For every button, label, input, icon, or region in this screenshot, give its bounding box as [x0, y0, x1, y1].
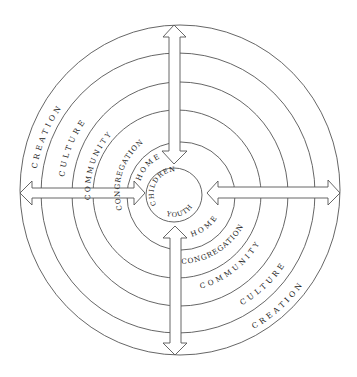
left-double-arrow-icon	[20, 181, 145, 205]
label-community-lower: COMMUNITY	[199, 238, 263, 291]
label-creation-upper: CREATION	[30, 102, 65, 169]
top-double-arrow-icon	[162, 25, 187, 164]
right-double-arrow-icon	[207, 180, 340, 205]
label-children: CHILDREN	[147, 165, 176, 207]
label-home-lower: HOME	[189, 212, 220, 239]
label-congregation-lower: CONGREGATION	[181, 222, 246, 266]
label-culture-upper: CULTURE	[57, 116, 88, 177]
bottom-double-arrow-icon	[163, 226, 187, 355]
concentric-ministry-diagram: CREATION CULTURE COMMUNITY CONGREGATION …	[0, 0, 357, 377]
arrows	[20, 25, 340, 355]
